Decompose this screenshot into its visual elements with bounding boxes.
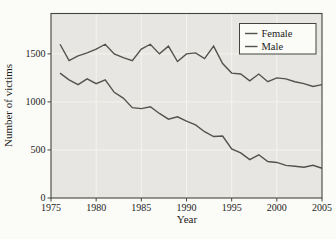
y-axis-label: Number of victims bbox=[2, 64, 14, 147]
x-tick-label: 1980 bbox=[86, 202, 106, 213]
x-tick-label: 1985 bbox=[131, 202, 151, 213]
x-axis-label: Year bbox=[177, 213, 198, 225]
y-tick-label: 500 bbox=[31, 144, 46, 155]
y-tick-label: 1000 bbox=[26, 96, 46, 107]
chart-figure: 1975198019851990199520002005050010001500… bbox=[0, 0, 336, 239]
y-tick-label: 0 bbox=[41, 192, 46, 203]
legend-label-female: Female bbox=[262, 28, 293, 39]
legend-label-male: Male bbox=[262, 41, 284, 52]
x-tick-label: 2005 bbox=[312, 202, 332, 213]
line-chart: 1975198019851990199520002005050010001500… bbox=[0, 0, 336, 239]
y-tick-label: 1500 bbox=[26, 48, 46, 59]
x-tick-label: 1990 bbox=[177, 202, 197, 213]
legend: Female Male bbox=[240, 24, 317, 55]
x-tick-label: 2000 bbox=[267, 202, 287, 213]
x-tick-label: 1995 bbox=[222, 202, 242, 213]
